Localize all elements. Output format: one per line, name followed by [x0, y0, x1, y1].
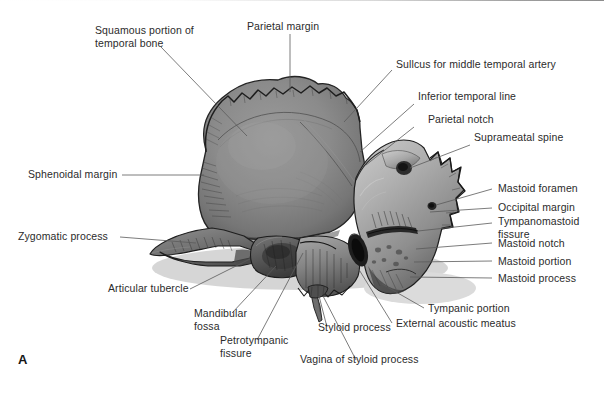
- label-mandibular-fossa: Mandibularfossa: [194, 307, 247, 332]
- label-mandibular-fossa-line1: Mandibular: [194, 307, 247, 319]
- label-parietal-notch: Parietal notch: [428, 113, 494, 126]
- label-squamous-portion: Squamous portion oftemporal bone: [95, 24, 194, 49]
- label-squamous-portion-line2: temporal bone: [95, 37, 164, 49]
- label-tympanic-portion: Tympanic portion: [428, 302, 510, 315]
- label-vagina-of-styloid-process: Vagina of styloid process: [300, 353, 419, 366]
- label-petrotympanic-fissure-line1: Petrotympanic: [220, 334, 288, 346]
- label-sphenoidal-margin: Sphenoidal margin: [28, 168, 117, 181]
- panel-letter: A: [18, 352, 27, 367]
- label-suprameatal-spine: Suprameatal spine: [474, 131, 563, 144]
- label-articular-tubercle: Articular tubercle: [108, 282, 189, 295]
- label-squamous-portion-line1: Squamous portion of: [95, 24, 194, 36]
- label-inferior-temporal-line: Inferior temporal line: [418, 90, 516, 103]
- label-zygomatic-process: Zygomatic process: [18, 230, 108, 243]
- label-petrotympanic-fissure: Petrotympanicfissure: [220, 334, 288, 359]
- squamous-portion-shape: [199, 77, 365, 245]
- label-petrotympanic-fissure-line2: fissure: [220, 347, 252, 359]
- label-sulcus-middle-temporal-artery: Sullcus for middle temporal artery: [396, 58, 556, 71]
- anatomy-figure-panel: Squamous portion oftemporal bone Parieta…: [0, 0, 604, 395]
- mastoid-portion-shape: [354, 140, 465, 294]
- leader-sulcus-middle-temporal-artery: [344, 70, 392, 122]
- label-mandibular-fossa-line2: fossa: [194, 320, 220, 332]
- label-occipital-margin: Occipital margin: [498, 201, 575, 214]
- label-mastoid-foramen: Mastoid foramen: [498, 182, 578, 195]
- label-styloid-process: Styloid process: [318, 321, 391, 334]
- label-tympanomastoid-fissure-line1: Tympanomastoid: [498, 215, 579, 227]
- label-external-acoustic-meatus: External acoustic meatus: [396, 317, 516, 330]
- label-mastoid-notch: Mastoid notch: [498, 237, 565, 250]
- styloid-process-shape: [308, 285, 328, 322]
- label-parietal-margin: Parietal margin: [247, 20, 319, 33]
- label-mastoid-portion: Mastoid portion: [498, 255, 571, 268]
- label-mastoid-process: Mastoid process: [498, 272, 576, 285]
